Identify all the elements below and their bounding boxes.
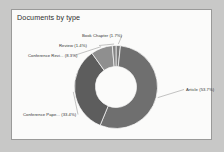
slice-conference-paper-label: Conference Pape... (33.4%): [23, 112, 76, 117]
screenshot-root: Documents by type Article (53.7%)Confere…: [0, 0, 224, 152]
slice-conference-review-label: Conference Revi... (8.3%): [28, 53, 77, 58]
slice-review-label: Review (1.4%): [59, 43, 87, 48]
slice-book-chapter-label: Book Chapter (1.7%): [82, 33, 122, 38]
chart-card: Documents by type Article (53.7%)Confere…: [11, 9, 212, 140]
slice-article-leader-line: [158, 90, 184, 98]
donut-slice-group: [75, 46, 158, 129]
slice-review-leader-line: [99, 44, 114, 45]
donut-chart: Article (53.7%)Conference Pape... (33.4%…: [12, 10, 211, 139]
slice-article-label: Article (53.7%): [186, 87, 214, 92]
donut-chart-svg: [12, 10, 211, 139]
